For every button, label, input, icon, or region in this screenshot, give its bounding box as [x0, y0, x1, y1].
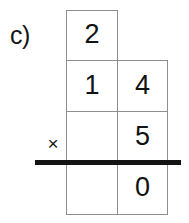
cell-digit: 5: [135, 123, 150, 150]
worksheet-problem-c: c) × 2 1 4 5 0: [0, 0, 189, 223]
grid-cell-r1c1[interactable]: 2: [66, 10, 118, 61]
grid-cell-r3c1[interactable]: [66, 111, 118, 163]
problem-label: c): [10, 20, 30, 50]
multiplication-sign-icon: ×: [44, 133, 62, 155]
answer-rule: [35, 160, 181, 165]
cell-digit: 2: [84, 21, 99, 48]
cell-digit: 1: [84, 72, 99, 99]
grid-cell-r3c2[interactable]: 5: [117, 111, 168, 163]
digit-grid: 2 1 4 5 0: [66, 10, 168, 215]
cell-digit: 0: [135, 174, 150, 201]
grid-cell-r2c2[interactable]: 4: [117, 60, 168, 112]
grid-cell-r2c1[interactable]: 1: [66, 60, 118, 112]
grid-cell-r4c1[interactable]: [66, 162, 118, 215]
cell-digit: 4: [135, 72, 150, 99]
grid-cell-r4c2[interactable]: 0: [117, 162, 168, 215]
